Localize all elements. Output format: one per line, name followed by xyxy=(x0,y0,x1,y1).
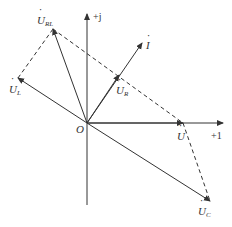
phasor-u-r xyxy=(87,75,119,123)
svg-text:·: · xyxy=(39,3,42,15)
svg-text:·: · xyxy=(147,29,150,41)
svg-text:·: · xyxy=(118,73,121,85)
origin-label: O xyxy=(76,123,84,135)
svg-text:UR: UR xyxy=(116,84,129,98)
phasor-diagram: +j +1 O URL · UL · I · UR · U · UC · xyxy=(0,0,232,227)
phasor-u-l xyxy=(18,78,87,123)
label-i: I · xyxy=(145,29,151,51)
phasor-u-c xyxy=(87,123,210,201)
svg-text:U: U xyxy=(177,130,186,142)
dashed-u-uc xyxy=(183,123,210,201)
svg-text:·: · xyxy=(11,72,14,84)
phasor-u-rl xyxy=(53,29,87,123)
label-u: U · xyxy=(177,119,186,142)
svg-text:UL: UL xyxy=(9,83,21,97)
svg-text:URL: URL xyxy=(37,14,53,28)
label-u-r: UR · xyxy=(116,73,129,98)
dashed-ul-url xyxy=(18,29,53,78)
imag-axis-label: +j xyxy=(93,11,101,22)
svg-text:·: · xyxy=(179,119,182,131)
label-u-rl: URL · xyxy=(37,3,53,28)
svg-text:·: · xyxy=(200,194,203,206)
svg-text:UC: UC xyxy=(198,205,211,219)
real-axis-label: +1 xyxy=(211,130,222,141)
